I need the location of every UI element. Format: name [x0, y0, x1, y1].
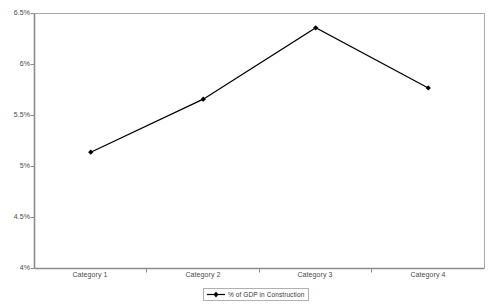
x-axis-tick-label: Category 3	[285, 271, 345, 279]
data-point-marker	[88, 150, 93, 155]
x-axis-tick-label: Category 4	[398, 271, 458, 279]
legend-entry-label: % of GDP in Construction	[228, 291, 304, 298]
series-markers	[88, 25, 431, 155]
chart-legend[interactable]: % of GDP in Construction	[203, 288, 309, 301]
data-point-marker	[426, 85, 431, 90]
x-axis-tick-label: Category 2	[173, 271, 233, 279]
line-marker-icon	[207, 290, 225, 299]
line-chart: 6.5% 6% 5.5% 5% 4.5% 4% Category 1 C	[0, 0, 493, 306]
plot-area	[0, 0, 493, 306]
x-axis-tick-label: Category 1	[60, 271, 120, 279]
series-line	[91, 28, 429, 152]
